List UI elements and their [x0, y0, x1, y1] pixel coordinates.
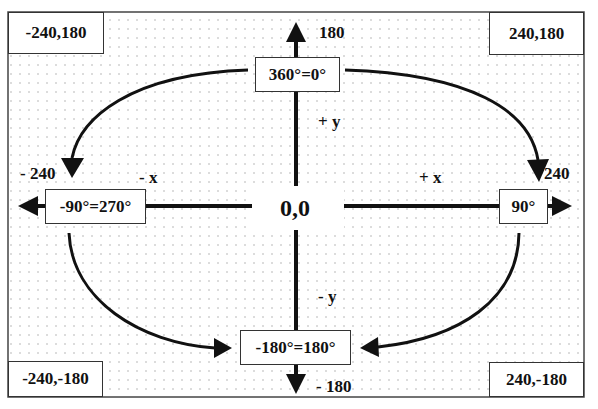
- minus-y-label: - y: [318, 288, 336, 305]
- y-max-label: 180: [319, 24, 345, 41]
- corner-top-left-label: -240,180: [26, 23, 87, 43]
- corner-bottom-left: -240,-180: [8, 361, 103, 397]
- angle-box-right: 90°: [499, 189, 548, 224]
- x-max-label: 240: [544, 165, 570, 182]
- angle-box-left: -90°=270°: [45, 189, 146, 224]
- angle-right-label: 90°: [512, 197, 536, 217]
- angle-bottom-label: -180°=180°: [256, 338, 336, 358]
- plus-x-label: + x: [419, 169, 441, 186]
- y-min-label: - 180: [316, 378, 351, 395]
- angle-left-label: -90°=270°: [60, 197, 131, 217]
- corner-top-right: 240,180: [489, 12, 584, 55]
- corner-bottom-right-label: 240,-180: [506, 370, 567, 390]
- plus-y-label: + y: [318, 113, 340, 130]
- angle-box-bottom: -180°=180°: [240, 330, 351, 365]
- x-min-label: - 240: [20, 165, 55, 182]
- origin-label: 0,0: [280, 196, 310, 220]
- corner-top-left: -240,180: [8, 12, 104, 54]
- angle-top-label: 360°=0°: [269, 65, 326, 85]
- corner-top-right-label: 240,180: [509, 24, 564, 44]
- corner-bottom-right: 240,-180: [489, 362, 584, 397]
- angle-box-top: 360°=0°: [255, 57, 340, 92]
- coordinate-diagram: -240,180 240,180 -240,-180 240,-180 360°…: [0, 0, 598, 409]
- minus-x-label: - x: [139, 169, 157, 186]
- corner-bottom-left-label: -240,-180: [22, 369, 89, 389]
